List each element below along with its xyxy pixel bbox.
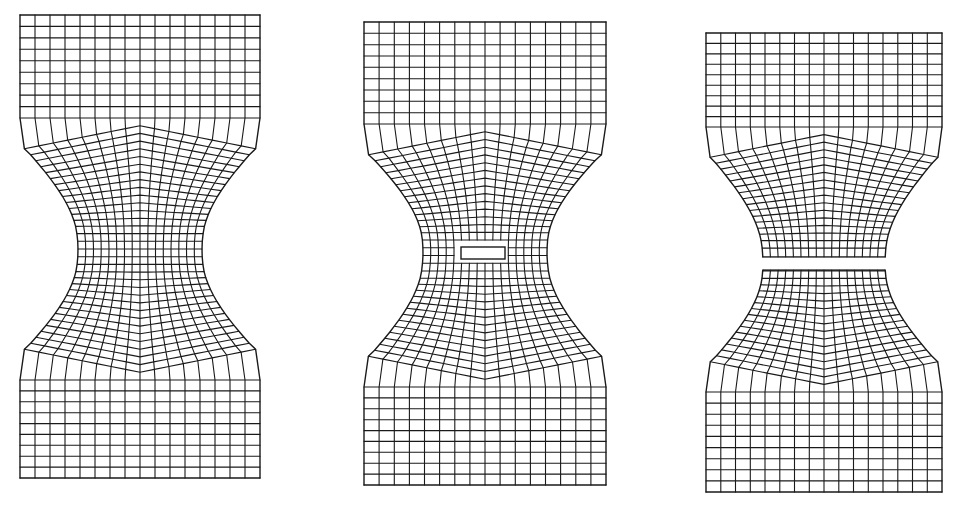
void-defect	[461, 247, 505, 259]
specimen-intact-mesh	[20, 15, 260, 478]
mesh-column-line	[110, 15, 125, 478]
mesh-column-line	[125, 15, 132, 478]
mesh-column-line	[832, 33, 839, 257]
mesh-column-line	[809, 33, 816, 257]
mesh-column-line	[885, 33, 942, 257]
mesh-boundary	[547, 22, 606, 485]
mesh-column-line	[455, 22, 470, 240]
specimen-void-mesh	[364, 22, 606, 485]
mesh-column-line	[95, 15, 117, 478]
mesh-column-line	[470, 22, 477, 240]
mesh-column-line	[409, 22, 446, 485]
figure-canvas	[0, 0, 958, 506]
mesh-boundary	[202, 15, 260, 478]
mesh-column-line	[163, 15, 185, 478]
fem-mesh-figure	[0, 0, 958, 506]
mesh-column-line	[187, 15, 231, 478]
mesh-column-line	[532, 22, 576, 485]
mesh-column-line	[706, 33, 763, 257]
mesh-boundary	[364, 22, 423, 485]
mesh-column-line	[501, 22, 516, 240]
mesh-column-line	[440, 22, 462, 240]
crack-gap	[704, 258, 944, 269]
mesh-column-line	[148, 15, 155, 478]
mesh-column-line	[156, 15, 171, 478]
mesh-column-line	[508, 22, 530, 485]
mesh-column-line	[721, 33, 771, 257]
mesh-column-line	[878, 33, 928, 257]
mesh-column-line	[493, 263, 500, 485]
specimen-fractured-mesh	[704, 33, 944, 492]
mesh-column-line	[65, 15, 101, 478]
mesh-boundary	[20, 15, 78, 478]
mesh-column-line	[50, 15, 94, 478]
mesh-column-line	[524, 22, 561, 485]
mesh-column-line	[179, 15, 215, 478]
mesh-column-line	[394, 22, 438, 485]
mesh-column-line	[493, 22, 500, 240]
mesh-column-line	[470, 263, 477, 485]
